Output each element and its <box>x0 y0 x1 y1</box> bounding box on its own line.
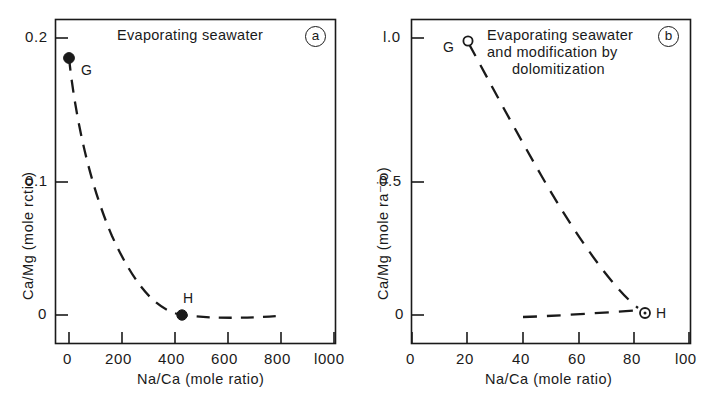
panel-b: l.0 0.5 0 0 20 40 60 80 l00 Ca/Mg (mole … <box>355 0 710 393</box>
y-tick-marks <box>412 38 425 315</box>
x-tick-label-4: 800 <box>264 350 291 367</box>
x-tick-label-3: 600 <box>211 350 238 367</box>
y-tick-label-2: 0 <box>38 305 47 322</box>
x-tick-label-5: l000 <box>314 350 345 367</box>
x-tick-marks <box>412 332 689 344</box>
y-tick-label-0: 0.2 <box>25 28 48 45</box>
panel-badge-a: a <box>305 26 326 47</box>
x-axis-title: Na/Ca (mole ratio) <box>137 371 264 387</box>
data-point-g <box>64 53 75 64</box>
y-tick-label-2: 0 <box>395 305 404 322</box>
panel-title-line-1: Evaporating seawater <box>487 27 633 44</box>
data-point-h-center <box>644 312 647 315</box>
x-tick-label-1: 200 <box>105 350 132 367</box>
x-tick-label-0: 0 <box>406 350 415 367</box>
panel-a: 0.2 0.1 0 0 200 400 600 800 l000 Ca/Mg (… <box>0 0 355 393</box>
x-tick-label-0: 0 <box>63 350 72 367</box>
dolomitization-branch <box>523 310 641 317</box>
panel-badge-b: b <box>658 26 679 47</box>
x-axis-title: Na/Ca (mole ratio) <box>485 371 612 387</box>
x-tick-marks <box>69 332 334 344</box>
x-tick-label-2: 40 <box>512 350 530 367</box>
panel-title: Evaporating seawater <box>117 27 263 44</box>
y-tick-label-0: l.0 <box>383 28 401 45</box>
panel-a-plot <box>0 0 355 393</box>
evaporation-curve <box>69 58 277 318</box>
y-tick-marks <box>56 38 69 315</box>
data-point-h-label: H <box>656 305 666 321</box>
data-point-g <box>463 36 472 45</box>
figure-canvas: 0.2 0.1 0 0 200 400 600 800 l000 Ca/Mg (… <box>0 0 710 393</box>
x-tick-label-3: 60 <box>568 350 586 367</box>
plot-frame <box>56 20 336 344</box>
data-point-g-label: G <box>443 39 454 55</box>
x-tick-label-5: l00 <box>675 350 697 367</box>
y-axis-title: Ca/Mg (mole rctio) <box>20 172 36 300</box>
data-point-g-label: G <box>81 62 92 78</box>
data-point-h-label: H <box>183 290 193 306</box>
x-tick-label-4: 80 <box>623 350 641 367</box>
panel-title-line-2: and modification by <box>487 44 618 61</box>
evaporation-curve <box>469 44 638 308</box>
panel-title-line-3: dolomitization <box>512 61 605 78</box>
y-axis-title: Ca/Mg (mole ra⁻io) <box>375 167 391 300</box>
x-tick-label-1: 20 <box>456 350 474 367</box>
data-point-h <box>177 310 187 320</box>
x-tick-label-2: 400 <box>158 350 185 367</box>
